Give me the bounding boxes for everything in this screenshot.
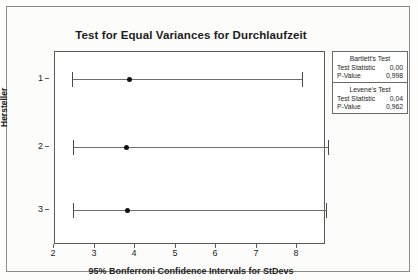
- bartlett-pvalue-value: 0,998: [386, 72, 403, 79]
- x-tick-label-6: 6: [205, 248, 225, 258]
- y-axis-title: Hersteller: [0, 88, 9, 127]
- plot-area: [54, 51, 325, 244]
- page-frame: Test for Equal Variances for Durchlaufze…: [6, 6, 410, 272]
- ci-cap-upper-2: [328, 140, 329, 155]
- levene-pvalue-value: 0,962: [386, 103, 403, 110]
- ci-point-3: [125, 208, 130, 213]
- page-title: Test for Equal Variances for Durchlaufze…: [41, 29, 341, 41]
- ci-point-1: [127, 77, 132, 82]
- bartlett-title: Bartlett's Test: [333, 52, 407, 64]
- levene-statistic-row: Test Statistic 0,04: [333, 95, 407, 103]
- levene-pvalue-label: P-Value: [337, 103, 361, 110]
- x-tick-label-8: 8: [286, 248, 306, 258]
- ci-line-1: [72, 79, 303, 80]
- ci-cap-lower-1: [72, 72, 73, 87]
- levene-section: Levene's Test Test Statistic 0,04 P-Valu…: [333, 83, 407, 113]
- ci-cap-lower-2: [73, 140, 74, 155]
- x-tick-label-2: 2: [43, 248, 63, 258]
- chart-screenshot: Test for Equal Variances for Durchlaufze…: [0, 0, 418, 280]
- bartlett-section: Bartlett's Test Test Statistic 0,00 P-Va…: [333, 52, 407, 80]
- levene-title: Levene's Test: [333, 83, 407, 95]
- ci-cap-upper-3: [326, 203, 327, 218]
- x-tick-label-7: 7: [246, 248, 266, 258]
- bartlett-statistic-label: Test Statistic: [337, 64, 375, 71]
- levene-statistic-value: 0,04: [390, 95, 403, 102]
- ci-line-2: [73, 147, 329, 148]
- x-tick-label-3: 3: [84, 248, 104, 258]
- y-tick-label-2: 2: [27, 141, 43, 151]
- bartlett-statistic-row: Test Statistic 0,00: [333, 64, 407, 72]
- levene-pvalue-row: P-Value 0,962: [333, 103, 407, 113]
- levene-statistic-label: Test Statistic: [337, 95, 375, 102]
- y-tick-mark-2: [45, 146, 49, 147]
- bartlett-statistic-value: 0,00: [390, 64, 403, 71]
- ci-line-3: [73, 210, 327, 211]
- ci-cap-lower-3: [73, 203, 74, 218]
- x-tick-label-5: 5: [165, 248, 185, 258]
- ci-cap-upper-1: [302, 72, 303, 87]
- bartlett-pvalue-row: P-Value 0,998: [333, 72, 407, 80]
- y-tick-mark-1: [45, 78, 49, 79]
- statistics-legend: Bartlett's Test Test Statistic 0,00 P-Va…: [332, 51, 408, 114]
- y-tick-label-3: 3: [27, 204, 43, 214]
- x-tick-label-4: 4: [124, 248, 144, 258]
- ci-point-2: [124, 145, 129, 150]
- bartlett-pvalue-label: P-Value: [337, 72, 361, 79]
- y-tick-label-1: 1: [27, 73, 43, 83]
- y-tick-mark-3: [45, 209, 49, 210]
- x-axis-title: 95% Bonferroni Confidence Intervals for …: [41, 266, 341, 276]
